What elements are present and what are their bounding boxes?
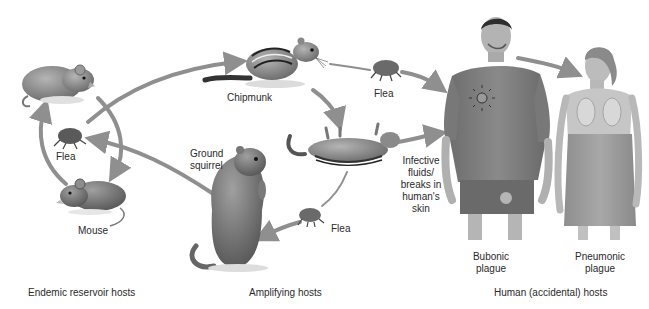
arrow-mouse-to-rat [41,110,66,184]
label-infective-fluids: Infective fluids/ breaks in human's skin [396,155,446,215]
section-amplifying-hosts: Amplifying hosts [249,287,322,298]
diagram-artwork [0,0,649,309]
label-mouse: Mouse [78,225,108,237]
bubonic-man-illustration [444,17,550,240]
label-flea-left: Flea [56,151,75,163]
arrow-chipmunk-to-flea [330,64,370,70]
label-flea-bottom: Flea [331,223,350,235]
section-endemic-reservoir-hosts: Endemic reservoir hosts [28,287,135,298]
label-ground-squirrel: Ground squirrel [190,148,236,172]
mouse-illustration [56,179,126,226]
section-human-accidental-hosts: Human (accidental) hosts [494,287,607,298]
arrow-flea-to-squirrel [264,222,300,236]
rat-illustration [22,65,95,106]
label-chipmunk: Chipmunk [227,92,272,104]
label-flea-top: Flea [374,88,393,100]
flea-left-illustration [54,128,86,149]
label-pneumonic-plague: Pneumonic plague [570,251,630,275]
plague-cycle-diagram: Flea Mouse Chipmunk Flea Ground squirrel… [0,0,649,309]
flea-top-illustration [371,60,401,81]
arrow-dead-to-flea [322,172,347,206]
dead-chipmunk-illustration [288,124,400,165]
arrow-chipmunk-to-dead [313,90,338,120]
label-bubonic-plague: Bubonic plague [466,251,516,275]
pneumonic-woman-illustration [558,47,639,240]
arrow-flea-to-bubonic [402,72,438,86]
arrow-dead-to-bubonic [398,134,436,142]
flea-bottom-illustration [298,208,324,227]
